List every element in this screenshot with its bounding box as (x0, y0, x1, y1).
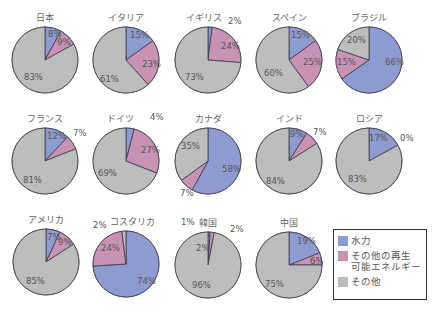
pie-chart: スペイン15%25%60% (256, 13, 322, 93)
pie-value-label: 15% (337, 57, 356, 67)
pie-title: 日本 (36, 12, 54, 23)
pie-outer-label: 2% (230, 224, 244, 234)
pie-value-label: 85% (26, 276, 45, 286)
pie-title: 韓国 (199, 218, 217, 228)
pie-value-label: 35% (181, 141, 200, 151)
pie-chart: インド9%84%7% (256, 114, 327, 194)
pie-outer-label: 0% (400, 133, 414, 143)
pie-value-label: 66% (385, 57, 404, 67)
pie-title: スペイン (272, 13, 307, 23)
pie-value-label: 60% (264, 68, 283, 78)
pie-value-label: 15% (291, 30, 310, 40)
pie-chart: アメリカ7%9%85% (13, 215, 79, 295)
pie-outer-label: 4% (150, 112, 164, 122)
legend-label: その他 (351, 276, 381, 287)
pie-title: ブラジル (351, 12, 387, 23)
pie-value-label: 25% (303, 57, 322, 67)
legend-label: 水力 (351, 235, 371, 246)
pie-chart: フランス12%81%7% (12, 114, 87, 194)
pie-value-label: 9% (57, 37, 71, 47)
pie-chart: 韓国2%96%1%2% (175, 217, 244, 298)
legend-label: その他の再生 可能エネルギー (351, 250, 421, 272)
pie-value-label: 58% (222, 164, 241, 174)
pie-title: カナダ (195, 113, 222, 124)
pie-title: コスタリカ (110, 217, 155, 227)
pie-chart: コスタリカ24%74%2% (93, 217, 159, 297)
pie-value-label: 24% (101, 243, 120, 253)
pie-value-label: 9% (290, 129, 304, 139)
pie-value-label: 24% (221, 41, 240, 51)
legend-swatch-other (338, 277, 348, 287)
pie-outer-label: 1% (181, 217, 195, 227)
pie-value-label: 69% (98, 168, 117, 178)
pie-chart: カナダ35%58%7% (175, 113, 241, 198)
pie-outer-label: 7% (73, 128, 87, 138)
pie-outer-label: 2% (228, 16, 242, 26)
legend-item-other: その他 (338, 276, 422, 287)
pie-value-label: 75% (265, 279, 284, 289)
legend-item-other-renewable: その他の再生 可能エネルギー (338, 250, 422, 272)
pie-title: アメリカ (28, 215, 64, 225)
pie-value-label: 84% (266, 176, 285, 186)
pie-outer-label: 7% (180, 188, 194, 198)
pie-title: ドイツ (107, 114, 134, 124)
pie-value-label: 15% (130, 30, 149, 40)
pie-value-label: 83% (24, 72, 43, 82)
pie-chart: 日本8%9%83% (12, 12, 78, 93)
pie-title: ロシア (356, 114, 383, 124)
pie-chart: ロシア17%83%0% (336, 114, 414, 194)
legend-swatch-hydro (338, 236, 348, 246)
pie-value-label: 9% (58, 237, 72, 247)
pie-title: イタリア (108, 13, 144, 23)
pie-value-label: 6% (310, 256, 324, 266)
legend-swatch-other-renewable (338, 251, 348, 261)
pie-outer-label: 2% (93, 220, 107, 230)
pie-value-label: 73% (185, 72, 204, 82)
pie-title: 中国 (280, 217, 298, 228)
pie-value-label: 2% (196, 243, 210, 253)
pie-value-label: 61% (100, 74, 119, 84)
pie-value-label: 27% (141, 145, 160, 155)
pie-value-label: 20% (347, 35, 366, 45)
pie-outer-label: 7% (313, 127, 327, 137)
pie-chart: イタリア15%23%61% (93, 13, 161, 93)
pie-title: イギリス (186, 13, 222, 23)
pie-title: フランス (27, 114, 63, 124)
pie-value-label: 19% (297, 236, 316, 246)
pie-chart: ブラジル20%15%66% (336, 12, 404, 93)
pie-value-label: 23% (142, 59, 161, 69)
pie-value-label: 83% (348, 174, 367, 184)
legend: 水力 その他の再生 可能エネルギー その他 (333, 229, 427, 300)
pie-chart: イギリス24%73%2% (175, 13, 242, 93)
pie-chart: ドイツ27%69%4% (93, 112, 164, 194)
pie-value-label: 12% (47, 131, 66, 141)
pie-chart: 中国19%6%75% (256, 217, 324, 298)
pie-title: インド (276, 114, 303, 124)
legend-item-hydro: 水力 (338, 235, 422, 246)
pie-value-label: 81% (23, 175, 42, 185)
pie-value-label: 74% (137, 276, 156, 286)
pie-value-label: 96% (192, 280, 211, 290)
pie-value-label: 17% (369, 133, 388, 143)
